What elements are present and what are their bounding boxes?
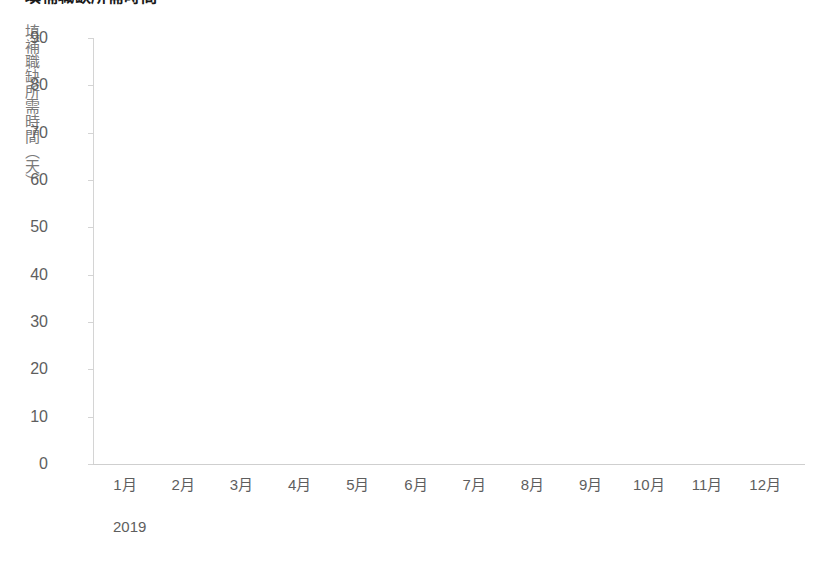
y-axis-tick-label: 0	[10, 456, 48, 472]
x-axis-tick-label: 4月	[271, 476, 329, 494]
y-axis-tick-mark	[88, 322, 93, 323]
y-axis-tick-label: 40	[10, 267, 48, 283]
y-axis-tick-mark	[88, 464, 93, 465]
x-axis-period-label: 2019	[113, 518, 146, 536]
y-axis-tick-mark	[88, 227, 93, 228]
y-axis-tick-label: 10	[10, 409, 48, 425]
chart-title: 填補職缺所需時間	[25, 0, 157, 7]
x-axis-tick-label: 5月	[329, 476, 387, 494]
x-axis-tick-label: 6月	[387, 476, 445, 494]
y-axis-tick-mark	[88, 275, 93, 276]
x-axis-tick-label: 1月	[96, 476, 154, 494]
y-axis-tick-label: 80	[10, 77, 48, 93]
y-axis-tick-label: 20	[10, 361, 48, 377]
x-axis-tick-label: 3月	[212, 476, 270, 494]
plot-area	[94, 38, 805, 464]
y-axis-tick-mark	[88, 85, 93, 86]
y-axis-tick-mark	[88, 369, 93, 370]
y-axis-tick-mark	[88, 133, 93, 134]
y-axis-tick-label: 30	[10, 314, 48, 330]
y-axis-tick-label: 90	[10, 30, 48, 46]
x-axis-tick-label: 11月	[678, 476, 736, 494]
y-axis-tick-label: 50	[10, 219, 48, 235]
y-axis-label: 填補職缺所需時間（天）	[14, 24, 40, 189]
x-axis-tick-label: 10月	[620, 476, 678, 494]
x-axis-tick-label: 12月	[736, 476, 794, 494]
chart-container: 填補職缺所需時間 填補職缺所需時間（天） 0102030405060708090…	[0, 0, 822, 562]
y-axis-tick-mark	[88, 417, 93, 418]
x-axis-tick-label: 7月	[445, 476, 503, 494]
x-axis-tick-label: 8月	[503, 476, 561, 494]
y-axis-tick-label: 70	[10, 125, 48, 141]
y-axis-tick-label: 60	[10, 172, 48, 188]
y-axis-tick-mark	[88, 38, 93, 39]
x-axis-line	[93, 464, 805, 465]
chart-title-clip: 填補職缺所需時間	[0, 0, 822, 7]
x-axis-tick-label: 2月	[154, 476, 212, 494]
x-axis-tick-label: 9月	[562, 476, 620, 494]
y-axis-tick-mark	[88, 180, 93, 181]
